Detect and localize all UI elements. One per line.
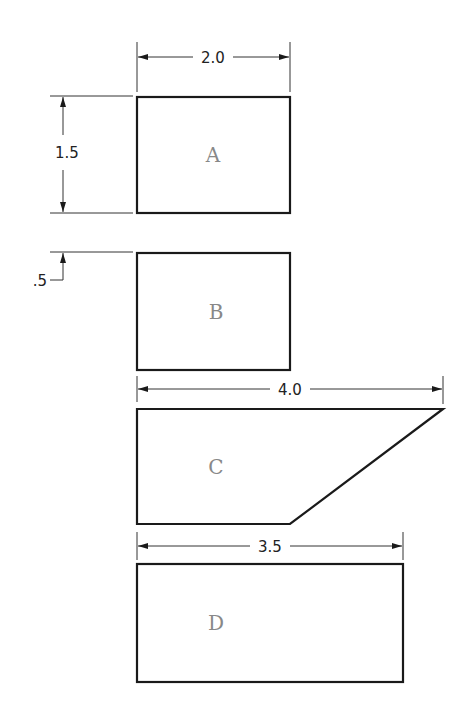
drawing-canvas: 2.0 A 1.5 .5 B 4.0 C <box>0 0 468 705</box>
dimension-label: .5 <box>33 272 47 290</box>
shape-b: B <box>137 253 290 370</box>
dimension-a-width: 2.0 <box>137 42 290 92</box>
shape-label: A <box>205 143 221 167</box>
shape-c: C <box>137 409 443 524</box>
dimension-a-height: 1.5 <box>50 96 133 213</box>
dimension-gap-ab: .5 <box>33 252 133 290</box>
dimension-d-width: 3.5 <box>137 532 403 560</box>
shape-d: D <box>137 564 403 682</box>
shape-label: D <box>208 611 224 635</box>
dimension-c-width: 4.0 <box>137 376 443 404</box>
dimension-label: 1.5 <box>55 144 79 162</box>
shape-label: C <box>208 455 223 479</box>
shape-a: A <box>137 97 290 213</box>
shape-label: B <box>209 300 224 324</box>
dimension-label: 4.0 <box>278 381 302 399</box>
dimension-label: 2.0 <box>201 49 225 67</box>
dimension-label: 3.5 <box>258 538 282 556</box>
